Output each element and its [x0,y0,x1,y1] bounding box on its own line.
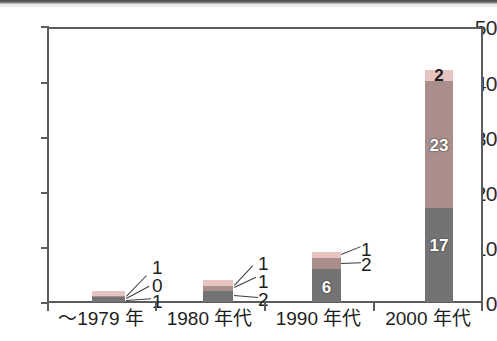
bar-2000s-label-middle: 23 [425,136,453,156]
bar-2000s: 2 23 17 [425,70,453,302]
bar-1990s-segment-bottom: 6 [312,269,341,302]
bar-1990s-label-bottom: 6 [312,278,341,298]
bar-1979 [92,291,125,302]
bar-1979-segment-bottom [92,297,125,302]
xaxis-label-1979: 〜1979 年 [47,307,155,331]
bar-1980s [203,280,233,302]
bar-2000s-segment-bottom: 17 [425,208,453,302]
callout-1990s-middle: 2 [361,255,372,274]
bar-2000s-segment-middle: 23 [425,81,453,208]
stacked-bar-chart: 50 40 30 20 10 0 6 2 23 [0,0,497,341]
bar-1980s-segment-bottom [203,291,233,302]
bar-1990s: 6 [312,252,341,302]
bar-1990s-segment-middle [312,258,341,269]
bar-2000s-label-bottom: 17 [425,236,453,256]
xaxis-label-2000s: 2000 年代 [373,307,483,331]
bar-2000s-segment-top: 2 [425,70,453,81]
xaxis-label-1990s: 1990 年代 [264,307,373,331]
xaxis-label-1980s: 1980 年代 [155,307,264,331]
